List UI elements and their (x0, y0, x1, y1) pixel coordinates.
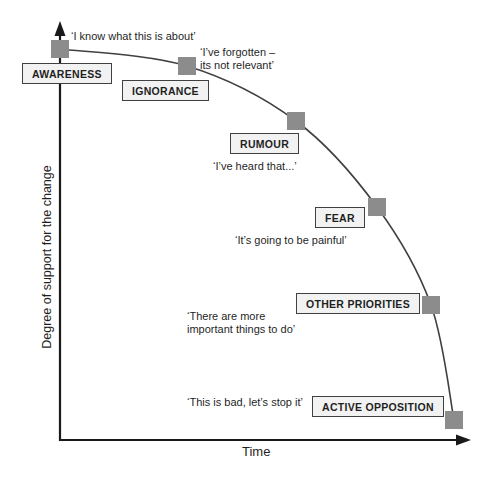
y-axis-label: Degree of support for the change (40, 165, 54, 348)
stage-marker-rumour (287, 112, 305, 130)
stage-quote-ignorance: ‘I’ve forgotten – its not relevant’ (200, 46, 275, 72)
stage-marker-awareness (51, 40, 69, 58)
stage-quote-other-priorities: ‘There are more important things to do’ (187, 310, 295, 336)
change-support-curve-diagram: Degree of support for the change Time AW… (0, 0, 490, 478)
stage-box-awareness: AWARENESS (22, 63, 112, 84)
stage-box-active-opposition: ACTIVE OPPOSITION (312, 396, 444, 417)
stage-quote-rumour: ‘I’ve heard that...’ (213, 160, 297, 173)
stage-marker-fear (368, 198, 386, 216)
x-axis-arrowhead (456, 435, 471, 446)
stage-marker-ignorance (178, 57, 196, 75)
stage-quote-fear: ‘It’s going to be painful’ (235, 234, 347, 247)
stage-quote-awareness: ‘I know what this is about’ (71, 30, 196, 43)
stage-box-rumour: RUMOUR (230, 133, 299, 154)
stage-marker-active-opposition (445, 411, 463, 429)
stage-box-ignorance: IGNORANCE (122, 80, 209, 101)
stage-quote-active-opposition: ‘This is bad, let’s stop it’ (187, 396, 303, 409)
stage-box-other-priorities: OTHER PRIORITIES (296, 293, 420, 314)
y-axis-arrowhead (55, 21, 66, 36)
stage-box-fear: FEAR (315, 207, 365, 228)
x-axis-label: Time (242, 444, 270, 459)
stage-marker-other-priorities (422, 296, 440, 314)
